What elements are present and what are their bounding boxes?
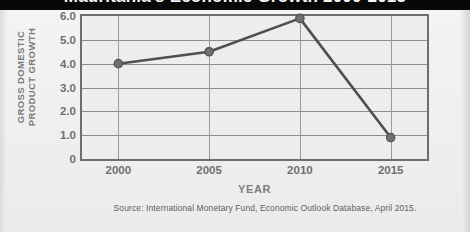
y-axis-title-line1: GROSS DOMESTIC (15, 7, 26, 147)
chart-title-banner: Mauritania's Economic Growth 2000-2015 (0, 0, 470, 10)
y-axis-title-line2: PRODUCT GROWTH (26, 7, 37, 147)
chart-title: Mauritania's Economic Growth 2000-2015 (0, 0, 470, 7)
x-tick-label: 2000 (88, 164, 148, 176)
x-tick-label: 2005 (179, 164, 239, 176)
plot-area: 2000: 42005: 4.52010: 5.92015: 0.9 (80, 14, 429, 161)
y-tick-label: 6.0 (42, 10, 76, 22)
x-tick-label: 2010 (270, 164, 330, 176)
chart-screenshot: Mauritania's Economic Growth 2000-2015 G… (0, 0, 470, 232)
y-axis-title: GROSS DOMESTIC PRODUCT GROWTH (15, 7, 37, 147)
y-tick-label: 1.0 (42, 129, 76, 141)
y-tick-label: 2.0 (42, 105, 76, 117)
data-point-marker: 2005: 4.5 (205, 48, 213, 56)
page-left-edge (0, 10, 7, 232)
y-tick-label: 4.0 (42, 58, 76, 70)
x-tick-label: 2015 (361, 164, 421, 176)
gdp-growth-series: 2000: 42005: 4.52010: 5.92015: 0.9 (82, 16, 427, 159)
y-axis-tick-labels: 01.02.03.04.05.06.0 (42, 14, 76, 161)
data-point-marker: 2010: 5.9 (296, 14, 304, 22)
y-tick-label: 3.0 (42, 82, 76, 94)
series-line (118, 18, 390, 137)
data-point-marker: 2000: 4 (114, 59, 122, 67)
source-note: Source: International Monetary Fund, Eco… (80, 203, 450, 213)
x-axis-tick-labels: 2000200520102015 (80, 164, 429, 182)
y-tick-label: 0 (42, 153, 76, 165)
data-point-marker: 2015: 0.9 (386, 133, 394, 141)
y-tick-label: 5.0 (42, 34, 76, 46)
x-axis-title: YEAR (80, 183, 429, 195)
page-right-edge (461, 10, 470, 232)
